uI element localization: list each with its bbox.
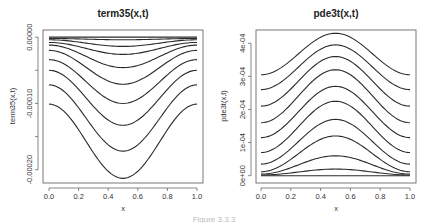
x-tick-label: 0.6 [345,192,355,201]
left-chart: term35(x,t) 0.00.20.40.60.81.0 0.00000-0… [8,8,203,213]
y-axis: 0e+001e-042e-043e-044e-04 [238,34,251,187]
series-line [261,56,410,106]
x-tick-label: 0.8 [375,192,385,201]
series-line [49,38,197,39]
x-tick-label: 0.0 [44,192,54,201]
right-chart: pde3t(x,t) 0.00.20.40.60.81.0 0e+001e-04… [219,8,416,213]
x-tick-label: 0.2 [286,192,296,201]
x-tick-label: 0.8 [162,192,172,201]
y-tick-label: -0.00010 [25,89,34,119]
x-tick-label: 0.6 [133,192,143,201]
x-axis-label: x [121,204,125,213]
figure: term35(x,t) 0.00.20.40.60.81.0 0.00000-0… [0,0,428,223]
y-tick-label: 3e-04 [238,67,247,86]
y-tick-label: 4e-04 [238,34,247,53]
x-axis-label: x [334,204,338,213]
x-tick-label: 0.0 [256,192,266,201]
x-tick-label: 0.4 [315,192,325,201]
series-line [49,85,197,151]
series-line [49,104,197,178]
y-axis: 0.00000-0.00010-0.00020 [25,24,38,185]
chart-title: pde3t(x,t) [314,8,359,19]
x-axis: 0.00.20.40.60.81.0 [44,188,202,201]
y-tick-label: -0.00020 [25,155,34,185]
y-tick-label: 0e+00 [238,165,247,186]
y-axis-label: term35(x,t) [8,87,17,124]
curve-group [49,37,197,178]
series-line [261,33,410,74]
series-line [261,45,410,90]
x-tick-label: 1.0 [405,192,415,201]
x-tick-label: 1.0 [192,192,202,201]
curve-group [261,33,410,175]
y-tick-label: 1e-04 [238,133,247,152]
series-line [49,45,197,68]
plot-frame [43,30,203,183]
x-axis: 0.00.20.40.60.81.0 [256,188,415,201]
x-tick-label: 0.2 [73,192,83,201]
y-tick-label: 2e-04 [238,100,247,119]
y-axis-label: pde3t(x,t) [219,90,228,122]
x-tick-label: 0.4 [103,192,113,201]
plot-frame [256,30,416,183]
y-tick-label: 0.00000 [25,24,34,51]
series-line [49,42,197,54]
figure-caption: Figure 3.3.3 [193,215,236,223]
chart-title: term35(x,t) [97,8,148,19]
